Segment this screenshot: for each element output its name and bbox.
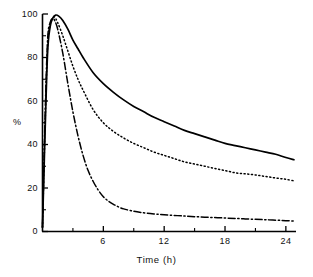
- y-tick-label: 40: [12, 139, 38, 149]
- y-tick-label: 80: [12, 52, 38, 62]
- x-tick-label: 24: [276, 236, 296, 246]
- x-axis-title: Time (h): [0, 254, 313, 265]
- y-tick-label: 0: [12, 226, 38, 236]
- dotted-curve: [43, 17, 294, 227]
- y-tick-label: 60: [12, 96, 38, 106]
- x-tick-label: 6: [93, 236, 113, 246]
- chart-container: 100 80 60 40 20 0 % 6 12 18 24 Time (h): [0, 0, 313, 277]
- y-tick-label: 20: [12, 183, 38, 193]
- axes: [42, 14, 296, 232]
- x-tick-label: 12: [154, 236, 174, 246]
- y-tick-label: 100: [12, 9, 38, 19]
- data-series: [43, 15, 294, 227]
- solid-curve: [43, 15, 294, 227]
- tick-marks: [43, 14, 286, 232]
- y-axis-title: %: [13, 117, 21, 127]
- x-tick-label: 18: [215, 236, 235, 246]
